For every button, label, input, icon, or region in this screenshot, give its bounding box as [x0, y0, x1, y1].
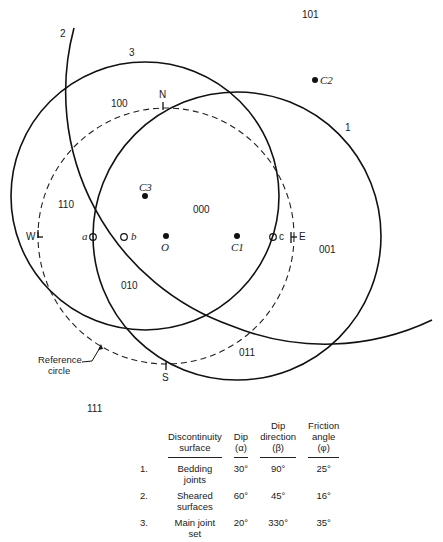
header-friction-line3: (φ) [317, 442, 330, 453]
friction-cell: 16° [302, 488, 345, 515]
header-rule [234, 457, 248, 458]
c1-label: C1 [231, 241, 244, 253]
west-label: W [26, 231, 35, 243]
friction-cell: 25° [302, 461, 345, 488]
header-friction-line1: Friction [308, 420, 339, 431]
south-label: S [162, 372, 169, 384]
c2-label: C2 [320, 74, 333, 86]
header-rule [260, 457, 296, 458]
great-circle-2 [66, 28, 432, 344]
region-110: 110 [58, 199, 74, 211]
header-surface-line1: Discontinuity [168, 431, 222, 442]
friction-cell: 35° [302, 515, 345, 542]
surface-line2: surfaces [177, 501, 213, 512]
table-row: 2. Shearedsurfaces 60° 45° 16° [140, 488, 345, 515]
point-b-label: b [131, 230, 137, 242]
circle-3-label: 3 [129, 47, 135, 59]
origin-label: O [161, 241, 169, 253]
center-point-c3 [142, 193, 148, 199]
header-friction: Friction angle (φ) [302, 420, 345, 461]
circle-1-label: 1 [345, 122, 351, 134]
header-rule [168, 457, 222, 458]
reference-circle-label-line2: circle [48, 365, 70, 377]
region-001: 001 [319, 244, 336, 256]
surface-line1: Bedding [177, 463, 212, 474]
surface-cell: Beddingjoints [162, 461, 228, 488]
east-label: E [299, 231, 306, 243]
surface-line2: joints [184, 474, 206, 485]
discontinuity-table: Discontinuity surface Dip (α) Dip direct… [140, 420, 345, 542]
point-a-label: a [82, 230, 88, 242]
intersection-point-b [121, 234, 128, 241]
region-101: 101 [302, 9, 319, 21]
region-111: 111 [87, 403, 102, 415]
dip-cell: 20° [228, 515, 254, 542]
surface-cell: Main jointset [162, 515, 228, 542]
point-c-label: c [279, 231, 284, 243]
dip-cell: 30° [228, 461, 254, 488]
header-num [140, 420, 162, 461]
center-point-c1 [234, 233, 240, 239]
header-dip-line2: (α) [235, 442, 247, 453]
c3-label: C3 [139, 181, 152, 193]
center-point-c2 [312, 77, 318, 83]
header-dip-direction: Dip direction (β) [254, 420, 302, 461]
header-dipdir-line3: (β) [272, 442, 284, 453]
header-friction-line2: angle [312, 431, 335, 442]
surface-line1: Sheared [177, 490, 213, 501]
dip-cell: 60° [228, 488, 254, 515]
header-dipdir-line2: direction [260, 431, 296, 442]
row-number: 3. [140, 515, 162, 542]
header-dip: Dip (α) [228, 420, 254, 461]
dip-direction-cell: 330° [254, 515, 302, 542]
header-surface: Discontinuity surface [162, 420, 228, 461]
region-010: 010 [121, 280, 138, 292]
north-label: N [159, 89, 166, 101]
header-surface-line2: surface [179, 442, 210, 453]
header-dip-line1: Dip [234, 431, 248, 442]
region-000: 000 [193, 204, 210, 216]
region-011: 011 [239, 347, 255, 359]
dip-direction-cell: 90° [254, 461, 302, 488]
surface-line1: Main joint [175, 517, 216, 528]
table-row: 3. Main jointset 20° 330° 35° [140, 515, 345, 542]
dip-direction-cell: 45° [254, 488, 302, 515]
table-header-row: Discontinuity surface Dip (α) Dip direct… [140, 420, 345, 461]
header-rule [308, 457, 339, 458]
header-dipdir-line1: Dip [271, 420, 285, 431]
region-100: 100 [111, 98, 128, 110]
center-point-o [163, 233, 169, 239]
circle-2-label: 2 [60, 28, 66, 40]
row-number: 1. [140, 461, 162, 488]
surface-cell: Shearedsurfaces [162, 488, 228, 515]
table-row: 1. Beddingjoints 30° 90° 25° [140, 461, 345, 488]
surface-line2: set [189, 528, 202, 539]
reference-leader [82, 346, 101, 362]
row-number: 2. [140, 488, 162, 515]
